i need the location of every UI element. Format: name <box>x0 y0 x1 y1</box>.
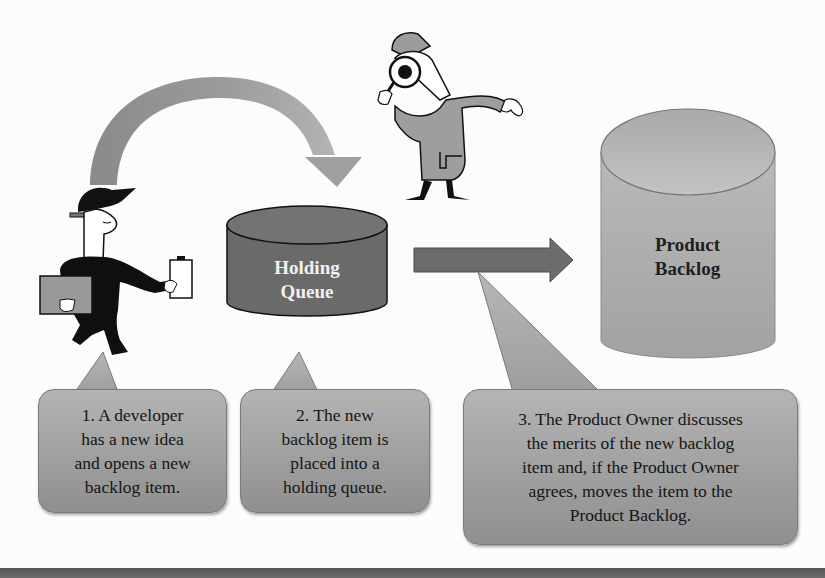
callout-3-line: item and, if the Product Owner <box>518 455 743 479</box>
backlog-process-diagram: Holding Queue Product Backlog 1. A devel… <box>0 0 825 578</box>
callout-3-line: Product Backlog. <box>518 503 743 527</box>
callout-step-3: 3. The Product Owner discusses the merit… <box>463 389 798 545</box>
callout-2-line: 2. The new <box>282 403 389 427</box>
developer-figure-icon <box>40 188 192 355</box>
product-backlog-label: Product Backlog <box>630 233 745 281</box>
product-backlog-label-line1: Product <box>655 234 720 255</box>
callout-1-line: and opens a new <box>74 451 190 475</box>
holding-queue-label-line1: Holding <box>274 257 339 278</box>
callout-2-line: placed into a <box>282 451 389 475</box>
product-backlog-label-line2: Backlog <box>655 258 720 279</box>
callout-3-line: agrees, moves the item to the <box>518 479 743 503</box>
curved-arrow-icon <box>90 77 362 187</box>
inspector-figure-icon <box>378 33 523 200</box>
holding-queue-label-line2: Queue <box>281 281 334 302</box>
callout-3-line: 3. The Product Owner discusses <box>518 407 743 431</box>
callout-2-line: backlog item is <box>282 427 389 451</box>
bottom-border-rule <box>0 568 825 578</box>
callout-step-2: 2. The new backlog item is placed into a… <box>240 389 430 513</box>
holding-queue-label: Holding Queue <box>247 256 367 304</box>
callout-step-1: 1. A developer has a new idea and opens … <box>38 389 227 513</box>
callout-1-line: backlog item. <box>74 475 190 499</box>
callout-3-line: the merits of the new backlog <box>518 431 743 455</box>
callout-1-line: has a new idea <box>74 427 190 451</box>
callout-2-line: holding queue. <box>282 475 389 499</box>
straight-arrow-icon <box>414 238 573 282</box>
callout-1-line: 1. A developer <box>74 403 190 427</box>
